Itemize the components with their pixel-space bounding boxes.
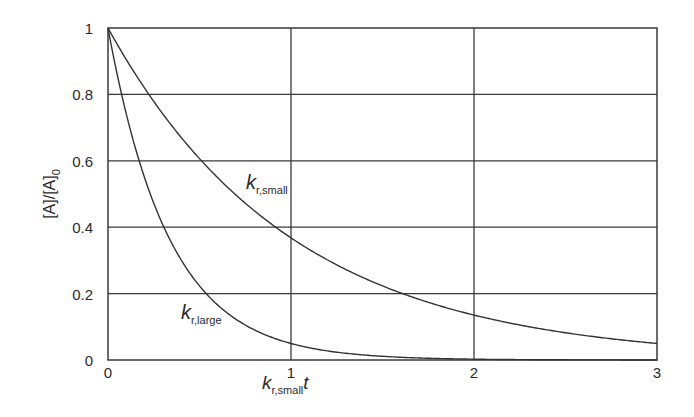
x-tick-label: 0: [104, 364, 112, 381]
y-tick-label: 0.2: [72, 286, 93, 303]
y-tick-labels: 00.20.40.60.81: [72, 20, 93, 369]
curve-label-large: kr,large: [181, 301, 222, 326]
x-axis-label-suffix: t: [303, 372, 309, 393]
curve-label-small-sub: r,small: [256, 184, 288, 196]
curve-label-large-sub: r,large: [191, 314, 222, 326]
y-axis-label-main: [A]/[A]: [41, 175, 58, 219]
curve-label-small: kr,small: [246, 171, 288, 196]
x-tick-label: 2: [470, 364, 478, 381]
y-tick-label: 0: [85, 352, 93, 369]
decay-chart: 00.20.40.60.81 0123 [A]/[A]0 kr,smallt k…: [0, 0, 694, 417]
x-tick-label: 1: [287, 364, 295, 381]
y-tick-label: 0.8: [72, 86, 93, 103]
curve-k-small: [108, 28, 657, 343]
y-tick-label: 0.6: [72, 153, 93, 170]
x-axis-label-sub: r,small: [272, 384, 304, 396]
x-tick-labels: 0123: [104, 364, 661, 381]
y-tick-label: 0.4: [72, 219, 93, 236]
y-axis-label: [A]/[A]0: [41, 169, 62, 219]
x-axis-label: kr,smallt: [262, 372, 309, 396]
x-tick-label: 3: [653, 364, 661, 381]
y-axis-label-sub: 0: [50, 169, 62, 175]
y-tick-label: 1: [85, 20, 93, 37]
